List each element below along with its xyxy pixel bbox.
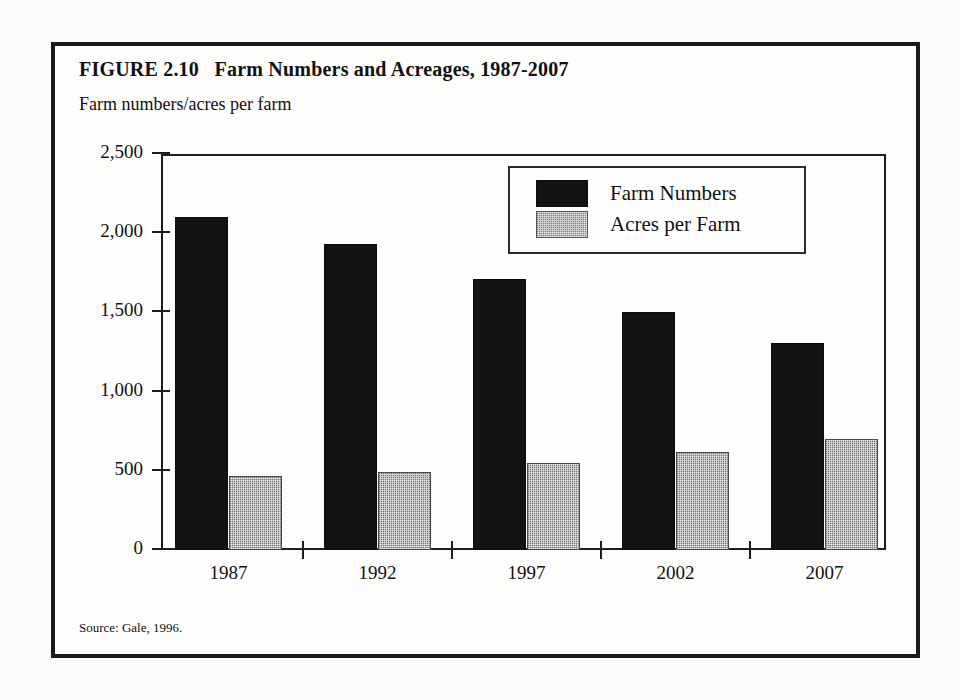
x-axis-tick: [302, 541, 304, 559]
x-axis-tick-label: 1992: [324, 562, 431, 584]
bar-acres-per-farm: [229, 476, 282, 550]
bar-farm-numbers: [771, 343, 824, 550]
plot-area: 05001,0001,5002,0002,500 198719921997200…: [161, 154, 886, 550]
bar-farm-numbers: [175, 217, 228, 550]
y-axis-tick: 2,500: [152, 152, 170, 154]
x-axis-tick-label: 1997: [473, 562, 580, 584]
gray-stipple-swatch-icon: [536, 211, 588, 238]
y-axis-tick: 2,000: [152, 231, 170, 233]
y-axis-tick-label: 1,500: [100, 301, 143, 320]
x-axis-tick: [749, 541, 751, 559]
bar-acres-per-farm: [527, 463, 580, 550]
page-canvas: FIGURE 2.10 Farm Numbers and Acreages, 1…: [0, 0, 960, 700]
x-axis-tick-label: 2007: [771, 562, 878, 584]
x-axis-tick: [451, 541, 453, 559]
y-axis-tick: 500: [152, 469, 170, 471]
legend-label-farm-numbers: Farm Numbers: [610, 181, 737, 206]
y-axis-caption: Farm numbers/acres per farm: [79, 94, 291, 115]
y-axis-tick: 1,000: [152, 390, 170, 392]
figure-frame: FIGURE 2.10 Farm Numbers and Acreages, 1…: [51, 42, 920, 658]
source-note: Source: Gale, 1996.: [79, 620, 182, 636]
y-axis-tick-label: 500: [115, 459, 144, 478]
y-axis-tick: 0: [152, 548, 170, 550]
y-axis-tick-label: 1,000: [100, 380, 143, 399]
bar-group: 1992: [324, 154, 431, 550]
legend-item-acres-per-farm: Acres per Farm: [510, 209, 804, 240]
figure-title: FIGURE 2.10 Farm Numbers and Acreages, 1…: [79, 58, 569, 81]
x-axis-tick: [600, 541, 602, 559]
bar-farm-numbers: [622, 312, 675, 550]
x-axis-tick-label: 2002: [622, 562, 729, 584]
y-axis-tick-label: 0: [134, 538, 144, 557]
legend-item-farm-numbers: Farm Numbers: [510, 178, 804, 209]
y-axis-tick-label: 2,500: [100, 142, 143, 161]
y-axis-tick-label: 2,000: [100, 221, 143, 240]
y-axis-tick: 1,500: [152, 310, 170, 312]
bar-acres-per-farm: [676, 452, 729, 550]
legend-label-acres-per-farm: Acres per Farm: [610, 212, 741, 237]
bar-acres-per-farm: [825, 439, 878, 550]
bar-farm-numbers: [473, 279, 526, 550]
bar-group: 1987: [175, 154, 282, 550]
black-swatch-icon: [536, 180, 588, 207]
bar-farm-numbers: [324, 244, 377, 551]
bar-acres-per-farm: [378, 472, 431, 550]
x-axis-tick-label: 1987: [175, 562, 282, 584]
chart-legend: Farm Numbers Acres per Farm: [508, 166, 806, 254]
